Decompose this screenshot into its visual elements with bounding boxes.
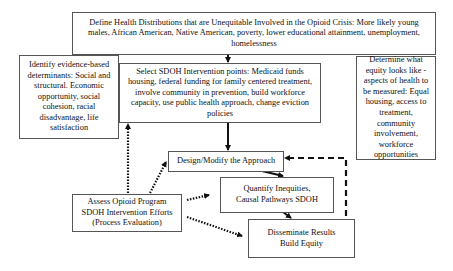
node-select-label: Select SDOH Intervention points: Medicai… xyxy=(125,67,315,120)
node-design-approach: Design/Modify the Approach xyxy=(168,151,284,172)
node-identify-label: Identify evidence-based determinants: So… xyxy=(23,60,115,134)
node-assess-label: Assess Opioid Program SDOH Intervention … xyxy=(76,197,178,229)
arrow-assess-to-quantify xyxy=(187,195,209,200)
node-define-label: Define Health Distributions that are Une… xyxy=(79,18,429,50)
node-assess-program: Assess Opioid Program SDOH Intervention … xyxy=(72,194,182,232)
arrow-assess-to-disseminate xyxy=(187,217,242,236)
node-determine-label: Determine what equity looks like - aspec… xyxy=(360,55,432,161)
node-quantify-inequities: Quantify Inequities, Causal Pathways SDO… xyxy=(220,177,334,213)
arrow-assess-to-design xyxy=(150,162,166,193)
node-quantify-label: Quantify Inequities, Causal Pathways SDO… xyxy=(235,184,319,205)
node-determine-equity: Determine what equity looks like - aspec… xyxy=(356,56,436,160)
node-select-sdoh-intervention: Select SDOH Intervention points: Medicai… xyxy=(119,63,321,123)
node-disseminate-results: Disseminate Results Build Equity xyxy=(248,219,355,258)
node-identify-determinants: Identify evidence-based determinants: So… xyxy=(19,55,119,139)
node-disseminate-label: Disseminate Results Build Equity xyxy=(265,228,338,249)
node-define-health-distributions: Define Health Distributions that are Une… xyxy=(72,12,436,55)
node-design-label: Design/Modify the Approach xyxy=(177,156,275,167)
